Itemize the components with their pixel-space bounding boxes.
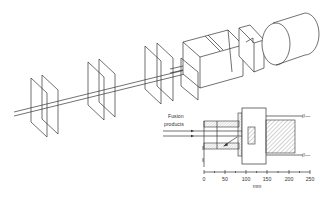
cross-section-inset: Fusion products //— //—	[163, 108, 311, 167]
scale-tick-200: 200	[285, 176, 294, 182]
fusion-label-line2: products	[164, 121, 184, 127]
fusion-detector-diagram: Fusion products //— //—	[0, 0, 332, 201]
scale-tick-150: 150	[263, 176, 272, 182]
scale-unit-label: mm	[253, 183, 262, 189]
fusion-label-line1: Fusion	[168, 113, 184, 119]
aperture-plates-2	[88, 59, 115, 120]
svg-text://—: //—	[302, 152, 311, 158]
aperture-plates-1	[31, 75, 58, 137]
scale-tick-250: 250	[306, 176, 315, 182]
svg-text://—: //—	[302, 113, 311, 119]
scale-tick-50: 50	[222, 176, 228, 182]
cylinder-detector	[262, 13, 319, 65]
scale-tick-0: 0	[203, 176, 206, 182]
detector-housing	[170, 30, 243, 100]
scale-tick-100: 100	[242, 176, 251, 182]
scale-bar: 0 50 100 150 200 250 mm	[203, 170, 315, 189]
aperture-plates-3	[145, 43, 173, 104]
